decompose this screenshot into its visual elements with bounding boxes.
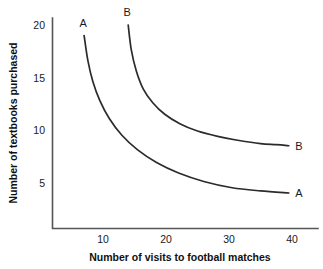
x-tick-label-10: 10: [97, 233, 109, 245]
x-tick-label-30: 30: [223, 233, 235, 245]
y-tick-label-20: 20: [33, 19, 45, 31]
curve-b-end-label: B: [295, 140, 302, 152]
y-tick-label-5: 5: [39, 177, 45, 189]
curve-b-start-label: B: [124, 6, 131, 18]
x-tick-label-40: 40: [286, 233, 298, 245]
y-tick-label-15: 15: [33, 72, 45, 84]
x-tick-label-20: 20: [160, 233, 172, 245]
curve-a-start-label: A: [79, 17, 87, 29]
axis-lines: [53, 18, 319, 229]
indifference-curve-chart: 20 15 10 5 10 20 30 40 A B A B Number of…: [0, 0, 323, 269]
curve-a-end-label: A: [295, 187, 303, 199]
curve-a: [84, 36, 289, 194]
chart-plot-area: 20 15 10 5 10 20 30 40 A B A B Number of…: [0, 0, 323, 269]
y-axis-title: Number of textbooks purchased: [7, 42, 19, 203]
curve-b: [128, 25, 289, 146]
y-tick-label-10: 10: [33, 124, 45, 136]
x-axis-title: Number of visits to football matches: [89, 251, 271, 263]
